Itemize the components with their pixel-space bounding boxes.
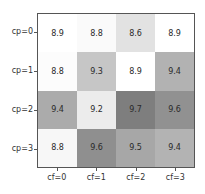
heatmap-cell: 8.9 — [38, 14, 77, 52]
heatmap-cell: 8.8 — [38, 52, 77, 90]
heatmap-cell: 9.3 — [77, 52, 116, 90]
y-tick-mark — [34, 110, 37, 111]
x-tick-mark — [175, 168, 176, 171]
y-tick-mark — [34, 149, 37, 150]
x-tick-mark — [96, 168, 97, 171]
heatmap-cell: 8.8 — [77, 14, 116, 52]
heatmap-cell: 9.4 — [38, 91, 77, 129]
heatmap-cell: 9.5 — [116, 129, 155, 167]
heatmap-cell: 8.6 — [116, 14, 155, 52]
heatmap-cell: 9.6 — [77, 129, 116, 167]
x-tick-label: cf=3 — [155, 173, 195, 183]
y-tick-mark — [34, 71, 37, 72]
y-tick-label: cp=3 — [0, 144, 33, 154]
heatmap-cell: 9.2 — [77, 91, 116, 129]
heatmap-plot: 8.98.88.68.98.89.38.99.49.49.29.79.68.89… — [37, 13, 195, 168]
x-tick-mark — [57, 168, 58, 171]
heatmap-cell: 8.9 — [155, 14, 194, 52]
heatmap-cell: 9.6 — [155, 91, 194, 129]
heatmap-cell: 8.9 — [116, 52, 155, 90]
y-tick-label: cp=0 — [0, 27, 33, 37]
heatmap-cell: 8.8 — [38, 129, 77, 167]
x-tick-label: cf=2 — [116, 173, 156, 183]
x-tick-label: cf=1 — [76, 173, 116, 183]
heatmap-cell: 9.4 — [155, 52, 194, 90]
y-tick-label: cp=1 — [0, 66, 33, 76]
x-tick-mark — [136, 168, 137, 171]
heatmap-cell: 9.7 — [116, 91, 155, 129]
y-tick-mark — [34, 32, 37, 33]
x-tick-label: cf=0 — [37, 173, 77, 183]
y-tick-label: cp=2 — [0, 105, 33, 115]
heatmap-cell: 9.4 — [155, 129, 194, 167]
